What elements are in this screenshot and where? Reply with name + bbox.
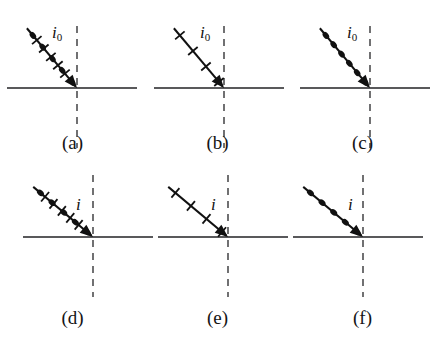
panel-a-angle-label: i0 [52, 24, 62, 41]
angle-symbol: i [211, 195, 216, 214]
incident-ray-line [168, 187, 226, 236]
angle-subscript: 0 [57, 31, 63, 43]
panel-f-caption: (f) [290, 307, 435, 329]
panel-c-angle-label: i0 [347, 24, 357, 41]
incident-ray-line [174, 28, 223, 86]
panel-f-angle-label: i [348, 196, 353, 213]
polarization-figure: i0(a)i0(b)i0(c)i(d)i(e)i(f) [0, 0, 436, 343]
angle-subscript: 0 [205, 31, 211, 43]
panel-d-caption: (d) [0, 307, 145, 329]
panel-e [145, 165, 290, 325]
angle-symbol: i [76, 195, 81, 214]
panel-d [0, 165, 145, 325]
panel-e-caption: (e) [145, 307, 290, 329]
panel-e-angle-label: i [211, 196, 216, 213]
panel-a-caption: (a) [0, 132, 145, 154]
panel-d-angle-label: i [76, 196, 81, 213]
panel-c-caption: (c) [290, 132, 435, 154]
angle-subscript: 0 [352, 31, 358, 43]
panel-f [290, 165, 435, 325]
panel-b-angle-label: i0 [200, 24, 210, 41]
panel-b-caption: (b) [145, 132, 290, 154]
angle-symbol: i [348, 195, 353, 214]
